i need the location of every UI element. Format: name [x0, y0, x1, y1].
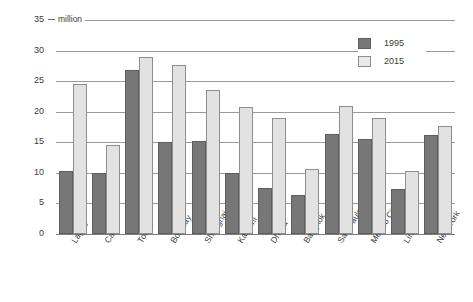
legend-label: 1995 [384, 39, 404, 48]
bar-cairo-2015 [106, 145, 120, 234]
bar-group [225, 20, 253, 234]
bar-dhaka-2015 [272, 118, 286, 234]
bar-sao-paulo-2015 [339, 106, 353, 234]
unit-dash-icon [48, 19, 55, 20]
bar-bombay-2015 [172, 65, 186, 234]
bar-group [192, 20, 220, 234]
bar-group [424, 20, 452, 234]
y-axis-tick-label: 30 [14, 46, 44, 55]
bar-new-york-1995 [424, 135, 438, 234]
y-axis-unit-caption: million [48, 14, 85, 24]
bar-group [158, 20, 186, 234]
y-axis-tick-label: 35 [14, 15, 44, 24]
bar-tokyo-1995 [125, 70, 139, 234]
bar-bangkok-1995 [291, 195, 305, 234]
bar-bangkok-2015 [305, 169, 319, 234]
y-axis-tick-label: 25 [14, 76, 44, 85]
legend-swatch-icon [358, 38, 371, 49]
bar-lima-1995 [391, 189, 405, 234]
bar-lagos-1995 [59, 171, 73, 234]
y-axis-tick-label: 20 [14, 107, 44, 116]
bar-group [291, 20, 319, 234]
y-axis-tick-label: 10 [14, 168, 44, 177]
legend-label: 2015 [384, 57, 404, 66]
legend-swatch-icon [358, 56, 371, 67]
bar-group [258, 20, 286, 234]
bar-shanghai-1995 [192, 141, 206, 234]
bar-shanghai-2015 [206, 90, 220, 234]
bar-karachi-2015 [239, 107, 253, 234]
y-axis-tick-label: 15 [14, 137, 44, 146]
bar-mexico-city-1995 [358, 139, 372, 234]
unit-caption-label: million [58, 14, 82, 24]
legend-item-1995: 1995 [358, 34, 426, 52]
y-axis-tick-label: 0 [14, 229, 44, 238]
bar-group [325, 20, 353, 234]
bar-sao-paulo-1995 [325, 134, 339, 234]
y-axis-tick-label: 5 [14, 198, 44, 207]
bar-lagos-2015 [73, 84, 87, 234]
y-axis: 05101520253035 [14, 20, 44, 234]
x-axis: LagosCairoTokyoBombayShanghaiKarachiDhak… [56, 234, 455, 302]
bar-group [59, 20, 87, 234]
bar-mexico-city-2015 [372, 118, 386, 234]
bar-group [92, 20, 120, 234]
bar-chart: 05101520253035 million LagosCairoTokyoBo… [0, 0, 473, 302]
bar-cairo-1995 [92, 173, 106, 234]
bar-dhaka-1995 [258, 188, 272, 234]
bar-bombay-1995 [158, 142, 172, 234]
bar-new-york-2015 [438, 126, 452, 234]
chart-legend: 19952015 [358, 32, 426, 72]
legend-item-2015: 2015 [358, 52, 426, 70]
bar-karachi-1995 [225, 173, 239, 234]
bar-tokyo-2015 [139, 57, 153, 234]
bar-lima-2015 [405, 171, 419, 234]
bar-group [125, 20, 153, 234]
